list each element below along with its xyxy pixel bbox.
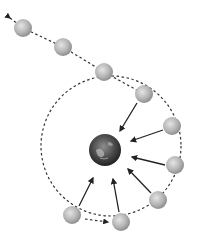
moon	[149, 191, 167, 209]
moons	[14, 19, 184, 231]
planet	[89, 134, 121, 166]
moon	[163, 117, 181, 135]
moon	[95, 63, 113, 81]
moon	[54, 38, 72, 56]
orbit-direction-arrow	[85, 219, 108, 222]
moon	[135, 85, 153, 103]
orbit-diagram	[0, 0, 202, 244]
moon	[63, 206, 81, 224]
moon	[166, 156, 184, 174]
moon	[112, 213, 130, 231]
moon	[14, 19, 32, 37]
